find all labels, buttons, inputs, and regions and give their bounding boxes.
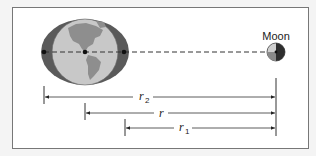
r1-subscript: 1: [185, 127, 190, 136]
far-bulge-point: [42, 50, 47, 55]
r2-subscript: 2: [145, 96, 150, 105]
distance-r2: r 2: [44, 86, 275, 105]
r1-label: r: [179, 120, 184, 134]
earth-moon-diagram: Moon r 2 r r 1: [0, 0, 316, 156]
moon-group: Moon: [262, 30, 290, 61]
r2-label: r: [139, 89, 144, 103]
moon-shade-quarter: [267, 52, 276, 61]
r-label: r: [159, 106, 164, 120]
near-bulge-point: [122, 50, 127, 55]
earth-center-point: [83, 50, 88, 55]
moon-center-point: [275, 51, 278, 54]
moon-label: Moon: [262, 30, 290, 42]
earth-group: [41, 19, 268, 85]
distance-r1: r 1: [125, 119, 275, 136]
distance-r: r: [85, 103, 275, 120]
